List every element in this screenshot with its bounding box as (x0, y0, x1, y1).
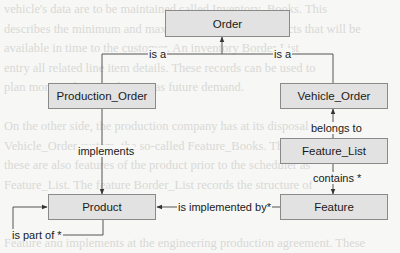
node-feature: Feature (280, 194, 388, 220)
edge-label-implements: implements (77, 145, 135, 157)
node-product-label: Product (82, 201, 122, 213)
node-production-order-label: Production_Order (57, 90, 148, 102)
edge-label-is-part-of: is part of * (11, 229, 63, 241)
edge-label-production-is-a: is a (148, 48, 167, 60)
edge-label-belongs-to: belongs to (310, 122, 363, 134)
node-feature-list: Feature_List (280, 138, 388, 164)
edge-label-vehicle-is-a: is a (273, 48, 292, 60)
node-product: Product (48, 194, 156, 220)
node-feature-list-label: Feature_List (302, 145, 366, 157)
edge-label-is-implemented-by: is implemented by* (177, 201, 272, 213)
node-order: Order (165, 10, 290, 37)
node-production-order: Production_Order (48, 83, 156, 109)
node-order-label: Order (213, 18, 242, 30)
node-vehicle-order: Vehicle_Order (280, 83, 388, 109)
node-vehicle-order-label: Vehicle_Order (298, 90, 371, 102)
edge-label-contains: contains * (312, 172, 362, 184)
node-feature-label: Feature (314, 201, 354, 213)
